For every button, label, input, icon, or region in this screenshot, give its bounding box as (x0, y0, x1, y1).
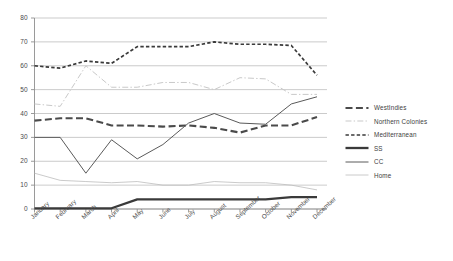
legend-item-label: CC (374, 158, 383, 165)
legend-item-label: WestIndies (374, 104, 407, 111)
y-axis-tick-label: 50 (12, 86, 28, 93)
legend-item[interactable]: Mediterranean (345, 128, 453, 142)
series-line-mediterranean (35, 42, 318, 75)
y-axis-tick-label: 60 (12, 62, 28, 69)
legend-item-label: SS (374, 145, 383, 152)
solid-thin-swatch (345, 157, 369, 167)
series-line-cc (35, 97, 318, 173)
legend-item-label: Northern Colonies (374, 118, 427, 125)
series-line-westindies (35, 117, 318, 133)
solid-thick-swatch (345, 143, 369, 153)
legend-item-label: Mediterranean (374, 131, 417, 138)
chart-legend: WestIndiesNorthern ColoniesMediterranean… (345, 101, 453, 182)
dashed-short-swatch (345, 130, 369, 140)
y-axis-tick-label: 0 (12, 205, 28, 212)
y-axis-tick-label: 10 (12, 181, 28, 188)
solid-hairline-swatch (345, 170, 369, 180)
series-line-northern-colonies (35, 66, 318, 107)
legend-item[interactable]: Home (345, 169, 453, 183)
solid-light-swatch (345, 116, 369, 126)
legend-item[interactable]: SS (345, 142, 453, 156)
series-line-home (35, 173, 318, 190)
legend-item[interactable]: Northern Colonies (345, 115, 453, 129)
line-chart: WestIndiesNorthern ColoniesMediterranean… (0, 0, 453, 261)
y-axis-tick-label: 70 (12, 38, 28, 45)
y-axis-tick-label: 80 (12, 14, 28, 21)
legend-item-label: Home (374, 172, 391, 179)
y-axis-tick-label: 20 (12, 157, 28, 164)
legend-item[interactable]: CC (345, 155, 453, 169)
dashed-medium-swatch (345, 103, 369, 113)
y-axis-tick-label: 40 (12, 110, 28, 117)
y-axis-tick-label: 30 (12, 133, 28, 140)
legend-item[interactable]: WestIndies (345, 101, 453, 115)
